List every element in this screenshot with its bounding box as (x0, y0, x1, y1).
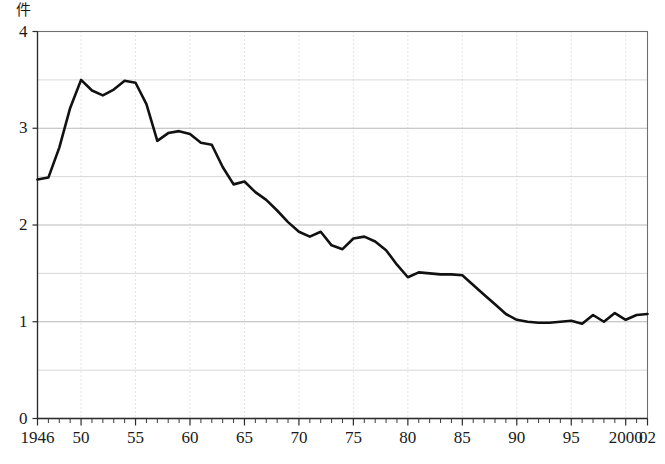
x-axis-tick-label: 02 (636, 429, 660, 447)
x-axis-tick-label: 60 (178, 429, 202, 447)
x-axis-tick-label: 85 (450, 429, 474, 447)
x-axis-tick-label: 80 (396, 429, 420, 447)
y-axis-tick-label: 1 (2, 313, 28, 330)
x-axis-tick-label: 70 (287, 429, 311, 447)
y-axis-tick-label: 2 (2, 216, 28, 233)
x-axis-tick-label: 65 (232, 429, 256, 447)
y-axis-tick-label: 4 (2, 23, 28, 40)
x-axis-tick-label: 75 (341, 429, 365, 447)
line-chart-plot (0, 0, 665, 464)
data-series-line (38, 80, 648, 324)
x-axis-tick-label: 1946 (16, 429, 60, 447)
y-axis-tick-label: 3 (2, 119, 28, 136)
chart-figure: 件 01234 194650556065707580859095200002 (0, 0, 665, 464)
x-axis-tick-label: 90 (505, 429, 529, 447)
x-axis-tick-label: 50 (69, 429, 93, 447)
x-axis-tick-label: 55 (124, 429, 148, 447)
x-axis-tick-label: 95 (559, 429, 583, 447)
y-axis-tick-label: 0 (2, 410, 28, 427)
